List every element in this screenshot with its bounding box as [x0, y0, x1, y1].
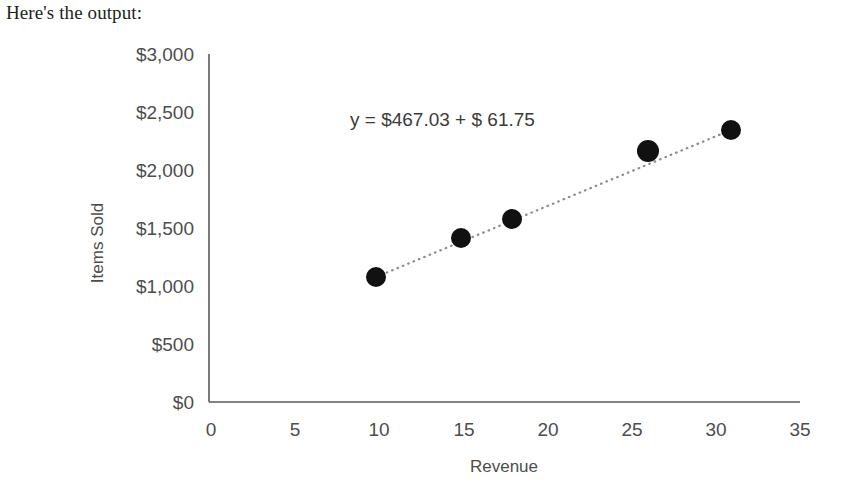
trendline: [376, 130, 731, 277]
data-point[interactable]: [637, 140, 659, 162]
x-axis-tick-labels: 0 5 10 15 20 25 30 35: [206, 419, 811, 440]
data-point[interactable]: [502, 209, 522, 229]
y-tick-label: $3,000: [136, 44, 194, 65]
x-tick-label: 35: [789, 419, 810, 440]
chart-canvas: $3,000 $2,500 $2,000 $1,500 $1,000 $500 …: [0, 30, 848, 503]
y-tick-label: $500: [152, 334, 194, 355]
data-point[interactable]: [721, 120, 741, 140]
x-tick-label: 25: [621, 419, 642, 440]
y-tick-label: $2,500: [136, 102, 194, 123]
regression-equation-label: y = $467.03 + $ 61.75: [350, 109, 535, 130]
data-point[interactable]: [451, 228, 471, 248]
x-tick-label: 30: [705, 419, 726, 440]
intro-text: Here's the output:: [6, 2, 142, 24]
x-tick-label: 5: [290, 419, 301, 440]
x-tick-label: 15: [453, 419, 474, 440]
x-tick-label: 20: [537, 419, 558, 440]
x-axis-title: Revenue: [470, 457, 538, 476]
y-tick-label: $2,000: [136, 160, 194, 181]
x-tick-label: 10: [368, 419, 389, 440]
y-tick-label: $0: [173, 392, 194, 413]
x-tick-label: 0: [206, 419, 217, 440]
y-tick-label: $1,000: [136, 276, 194, 297]
y-tick-label: $1,500: [136, 218, 194, 239]
y-axis-title: Items Sold: [88, 203, 107, 283]
data-point[interactable]: [366, 267, 386, 287]
y-axis-tick-labels: $3,000 $2,500 $2,000 $1,500 $1,000 $500 …: [136, 44, 194, 413]
scatter-chart: $3,000 $2,500 $2,000 $1,500 $1,000 $500 …: [0, 30, 848, 503]
